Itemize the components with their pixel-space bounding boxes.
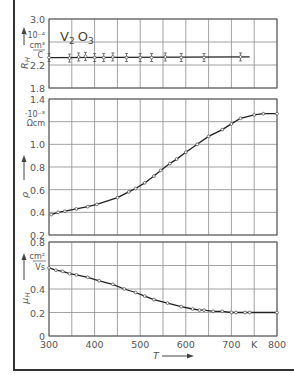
data-point: [111, 283, 114, 286]
data-point: [86, 205, 89, 208]
data-point: [68, 272, 71, 275]
y-axis-label-mobility: μH: [19, 292, 32, 305]
y-tick-label: 0.6: [30, 185, 45, 196]
data-point: [175, 158, 178, 161]
data-point: [191, 308, 194, 311]
data-point: [239, 56, 242, 59]
data-point: [48, 266, 51, 269]
top-unit-numerator: cm³: [30, 41, 45, 50]
data-point: [207, 135, 210, 138]
data-point: [159, 169, 162, 172]
material-label: V2O3: [60, 29, 94, 46]
x-tick-label: 400: [86, 339, 104, 350]
data-point: [164, 56, 167, 59]
data-point: [152, 175, 155, 178]
resistivity-panel: 0.20.40.60.81.01.4: [30, 94, 279, 241]
data-point: [166, 302, 169, 305]
mid-unit: Ωcm: [27, 119, 46, 128]
data-point: [198, 309, 201, 312]
data-point: [180, 305, 183, 308]
data-point: [239, 117, 242, 120]
data-point: [134, 291, 137, 294]
y-tick-label: 3.0: [30, 14, 45, 25]
y-tick-label: 0.2: [30, 308, 45, 319]
data-point: [168, 162, 171, 165]
x-axis-label: T: [153, 350, 160, 361]
data-point: [48, 56, 51, 59]
x-tick-label: 700: [222, 339, 240, 350]
y-tick-label: 0.4: [30, 207, 45, 218]
data-point: [111, 56, 114, 59]
y-axis-label-resistivity-arrow-head-icon: [22, 155, 27, 162]
y-tick-label: 1.4: [30, 94, 45, 105]
mid-unit-exponent: ·10⁻³: [25, 110, 45, 119]
data-point: [203, 56, 206, 59]
y-axis-label-resistivity: ρ: [19, 192, 30, 198]
y-tick-label: 2.2: [30, 60, 45, 71]
data-point: [116, 196, 119, 199]
y-tick-label: 1.0: [30, 139, 45, 150]
data-point: [203, 309, 206, 312]
data-point: [262, 112, 265, 115]
data-point: [54, 269, 57, 272]
data-point: [86, 276, 89, 279]
y-tick-label: 0.8: [30, 237, 45, 248]
data-point: [230, 123, 233, 126]
bot-unit-denominator: Vs: [35, 263, 45, 272]
data-point: [93, 56, 96, 59]
data-point: [212, 310, 215, 313]
data-point: [276, 112, 279, 115]
data-point: [276, 311, 279, 314]
data-point: [221, 310, 224, 313]
data-curve: [51, 114, 277, 215]
data-point: [95, 203, 98, 206]
top-unit-denominator: C: [37, 51, 43, 60]
y-tick-label: 0.8: [30, 162, 45, 173]
top-unit-exponent: ·10⁻⁴: [25, 31, 45, 40]
data-point: [64, 210, 67, 213]
data-point: [57, 211, 60, 214]
data-point: [102, 56, 105, 59]
data-point: [134, 187, 137, 190]
x-arrow-head-icon: [187, 354, 194, 359]
data-point: [68, 57, 71, 60]
data-point: [77, 56, 80, 59]
y-tick-label: 1.8: [30, 83, 45, 94]
data-point: [143, 295, 146, 298]
data-point: [50, 213, 53, 216]
x-tick-label: 500: [131, 339, 149, 350]
data-point: [152, 298, 155, 301]
data-point: [127, 191, 130, 194]
y-axis-label-mobility-arrow-head-icon: [22, 253, 27, 260]
data-point: [180, 56, 183, 59]
x-unit-label: K: [251, 339, 258, 350]
chart-v2o3: 1.82.23.00.20.40.60.81.01.400.20.40.8300…: [0, 0, 294, 390]
data-point: [150, 56, 153, 59]
x-tick-label: 300: [40, 339, 58, 350]
data-point: [235, 311, 238, 314]
data-point: [139, 56, 142, 59]
mobility-panel: 00.20.40.8: [30, 237, 279, 342]
data-point: [75, 274, 78, 277]
x-tick-label: 600: [177, 339, 195, 350]
data-point: [75, 208, 78, 211]
data-point: [248, 311, 251, 314]
data-point: [84, 55, 87, 58]
y-tick-label: 0.4: [30, 284, 45, 295]
data-point: [61, 270, 64, 273]
data-point: [125, 56, 128, 59]
data-point: [123, 288, 126, 291]
data-point: [253, 113, 256, 116]
data-point: [230, 311, 233, 314]
data-point: [143, 181, 146, 184]
data-point: [221, 128, 224, 131]
data-point: [98, 279, 101, 282]
bot-unit-numerator: cm²: [30, 252, 45, 261]
data-point: [184, 151, 187, 154]
data-point: [244, 311, 247, 314]
hall-coefficient-panel: 1.82.23.0: [30, 14, 277, 94]
data-point: [196, 143, 199, 146]
x-tick-label: 800: [268, 339, 286, 350]
